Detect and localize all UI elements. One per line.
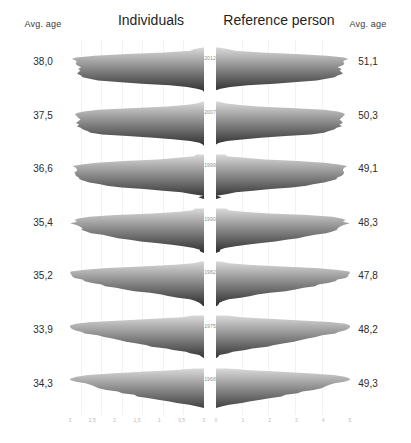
density-blob xyxy=(216,147,350,201)
density-row xyxy=(70,40,204,94)
row-year-label: 1982 xyxy=(197,269,223,275)
reference-person-panel xyxy=(216,40,350,415)
x-tick-right: 2 xyxy=(259,417,281,423)
density-row xyxy=(216,201,350,255)
x-axis: 32,521,510,50012345 xyxy=(0,415,411,435)
density-pyramid-chart: Avg. age Individuals Reference person Av… xyxy=(0,0,411,443)
x-tick-right: 1 xyxy=(232,417,254,423)
avg-age-reference-value: 49,1 xyxy=(331,163,405,174)
row-year-label: 1975 xyxy=(197,323,223,329)
density-blob xyxy=(216,201,350,255)
avg-age-individuals-value: 36,6 xyxy=(6,163,80,174)
header-left-avg-age: Avg. age xyxy=(6,19,80,29)
density-blob xyxy=(70,308,204,362)
x-tick-right: 4 xyxy=(312,417,334,423)
header-individuals-title: Individuals xyxy=(96,12,206,28)
avg-age-individuals-value: 37,5 xyxy=(6,110,80,121)
density-row xyxy=(216,308,350,362)
x-tick-left: 0,5 xyxy=(171,417,193,423)
density-row xyxy=(216,147,350,201)
density-blob xyxy=(70,94,204,148)
avg-age-reference-value: 47,8 xyxy=(331,270,405,281)
panel-gutter xyxy=(204,40,216,415)
row-year-label: 1990 xyxy=(197,216,223,222)
chart-header: Avg. age Individuals Reference person Av… xyxy=(0,0,411,40)
x-tick-left: 1,5 xyxy=(126,417,148,423)
density-row xyxy=(70,147,204,201)
density-blob xyxy=(216,361,350,415)
density-blob xyxy=(70,147,204,201)
x-tick-left: 2 xyxy=(104,417,126,423)
avg-age-individuals-value: 33,9 xyxy=(6,324,80,335)
avg-age-reference-value: 48,3 xyxy=(331,217,405,228)
avg-age-reference-value: 51,1 xyxy=(331,56,405,67)
density-blob xyxy=(216,308,350,362)
row-year-label: 1999 xyxy=(197,162,223,168)
row-year-label: 1968 xyxy=(197,376,223,382)
density-row xyxy=(216,40,350,94)
x-tick-left: 2,5 xyxy=(81,417,103,423)
x-tick-right: 3 xyxy=(285,417,307,423)
header-reference-person-title: Reference person xyxy=(214,12,344,28)
individuals-panel xyxy=(70,40,204,415)
density-blob xyxy=(70,40,204,94)
density-row xyxy=(216,254,350,308)
row-year-label: 2012 xyxy=(197,55,223,61)
avg-age-individuals-value: 34,3 xyxy=(6,378,80,389)
avg-age-reference-value: 49,3 xyxy=(331,378,405,389)
density-blob xyxy=(216,40,350,94)
density-row xyxy=(216,94,350,148)
density-blob xyxy=(216,254,350,308)
header-right-avg-age: Avg. age xyxy=(331,19,405,29)
avg-age-reference-value: 50,3 xyxy=(331,110,405,121)
density-row xyxy=(70,361,204,415)
density-row xyxy=(70,94,204,148)
avg-age-individuals-value: 35,4 xyxy=(6,217,80,228)
x-tick-right: 0 xyxy=(205,417,227,423)
density-row xyxy=(70,201,204,255)
density-row xyxy=(70,254,204,308)
density-blob xyxy=(70,361,204,415)
density-blob xyxy=(70,254,204,308)
row-year-label: 2007 xyxy=(197,109,223,115)
avg-age-reference-value: 48,2 xyxy=(331,324,405,335)
x-tick-left: 3 xyxy=(59,417,81,423)
density-row xyxy=(70,308,204,362)
density-blob xyxy=(70,201,204,255)
density-blob xyxy=(216,94,350,148)
x-tick-left: 1 xyxy=(148,417,170,423)
density-row xyxy=(216,361,350,415)
avg-age-individuals-value: 38,0 xyxy=(6,56,80,67)
x-tick-right: 5 xyxy=(339,417,361,423)
avg-age-individuals-value: 35,2 xyxy=(6,270,80,281)
